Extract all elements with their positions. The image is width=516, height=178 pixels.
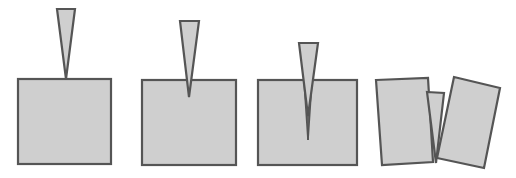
stage-4 [376,77,500,168]
stage-1-block [18,79,111,164]
wedge-splitting-diagram [0,0,516,178]
stage-4-left-piece [376,78,433,165]
stage-3 [258,43,357,165]
stage-1 [18,9,111,164]
stage-4-right-piece [437,77,500,168]
stage-2 [142,21,236,165]
stage-1-wedge [57,9,75,79]
